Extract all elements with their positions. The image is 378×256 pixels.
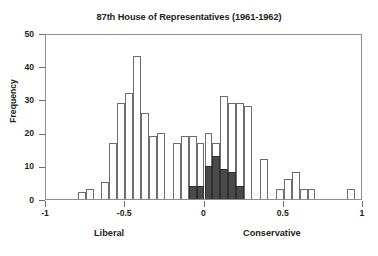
- x-axis-tick-label: 1: [342, 209, 378, 218]
- histogram-bar: [86, 189, 94, 199]
- histogram-bar: [284, 179, 292, 199]
- x-axis-tick-label: -0.5: [104, 209, 144, 218]
- y-axis-tick: [39, 67, 45, 68]
- bars-layer: [46, 35, 361, 199]
- histogram-bar-shaded: [228, 172, 236, 199]
- x-axis-tick: [204, 201, 205, 207]
- histogram-bar: [78, 192, 86, 199]
- histogram-bar: [173, 143, 181, 199]
- y-axis-tick: [39, 167, 45, 168]
- axis-annotation-liberal: Liberal: [94, 228, 124, 238]
- histogram-bar: [308, 189, 316, 199]
- histogram-bar: [236, 103, 244, 199]
- x-axis-tick: [283, 201, 284, 207]
- histogram-bar: [181, 136, 189, 199]
- histogram-bar-shaded: [205, 166, 213, 199]
- histogram-bar-shaded: [212, 156, 220, 199]
- histogram-bar-shaded: [236, 186, 244, 199]
- y-axis-tick-label: 20: [0, 129, 34, 138]
- y-axis-tick-label: 30: [0, 96, 34, 105]
- histogram-bar: [300, 189, 308, 199]
- histogram-bar: [276, 189, 284, 199]
- histogram-bar: [125, 93, 133, 199]
- histogram-bar: [109, 143, 117, 199]
- y-axis-tick-label: 40: [0, 63, 34, 72]
- y-axis-tick-label: 0: [0, 196, 34, 205]
- x-axis-tick-label: -1: [25, 209, 65, 218]
- x-axis-tick-label: 0: [184, 209, 224, 218]
- histogram-bar: [157, 133, 165, 199]
- histogram-bar-shaded: [189, 186, 197, 199]
- histogram-bar: [260, 159, 268, 199]
- plot-area: [45, 34, 362, 200]
- histogram-bar-shaded: [197, 186, 205, 199]
- histogram-bar: [133, 56, 141, 199]
- x-axis-tick-label: 0.5: [263, 209, 303, 218]
- histogram-bar: [244, 106, 252, 199]
- y-axis-tick: [39, 34, 45, 35]
- y-axis-tick: [39, 134, 45, 135]
- x-axis-tick: [362, 201, 363, 207]
- histogram-bar: [141, 113, 149, 199]
- y-axis-tick: [39, 100, 45, 101]
- y-axis-tick-label: 10: [0, 162, 34, 171]
- histogram-bar: [117, 103, 125, 199]
- y-axis-tick-label: 50: [0, 30, 34, 39]
- histogram-bar-shaded: [220, 169, 228, 199]
- x-axis-tick: [45, 201, 46, 207]
- x-axis-tick: [124, 201, 125, 207]
- histogram-bar: [149, 136, 157, 199]
- histogram-figure: 87th House of Representatives (1961-1962…: [0, 0, 378, 256]
- chart-title: 87th House of Representatives (1961-1962…: [0, 12, 378, 22]
- histogram-bar: [101, 182, 109, 199]
- axis-annotation-conservative: Conservative: [243, 228, 301, 238]
- histogram-bar: [292, 172, 300, 199]
- histogram-bar: [347, 189, 355, 199]
